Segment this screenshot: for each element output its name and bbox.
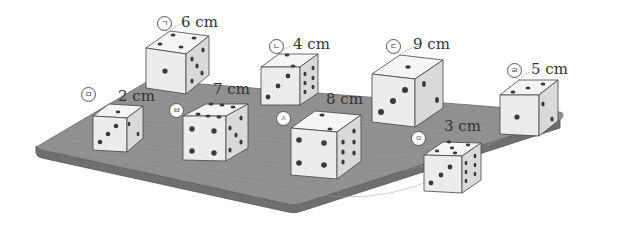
die-d-front — [500, 95, 539, 136]
marker-c: ㄷ — [386, 39, 401, 54]
size-label-g: 8 cm — [326, 92, 363, 107]
size-label-e: 2 cm — [118, 89, 155, 104]
marker-f: ㅂ — [169, 103, 184, 118]
die-f — [183, 103, 248, 162]
die-d — [500, 80, 558, 136]
die-b — [261, 54, 318, 106]
die-b-front — [261, 67, 300, 105]
size-label-b: 4 cm — [293, 37, 330, 52]
size-label-f: 7 cm — [213, 82, 250, 97]
marker-d: ㄹ — [507, 63, 522, 78]
die-e — [93, 104, 143, 152]
marker-e: ㅁ — [81, 87, 96, 102]
die-g — [291, 111, 361, 179]
size-label-a: 6 cm — [181, 15, 218, 30]
die-f-front — [183, 116, 226, 161]
marker-b: ㄴ — [269, 39, 284, 54]
size-label-d: 5 cm — [531, 62, 568, 77]
size-label-c: 9 cm — [413, 37, 450, 52]
marker-h: ㅇ — [411, 131, 426, 146]
marker-g: ㅅ — [276, 111, 291, 126]
dice-table-scene — [0, 0, 623, 226]
size-label-h: 3 cm — [444, 119, 481, 134]
die-g-front — [291, 128, 337, 179]
marker-a: ㄱ — [157, 16, 172, 31]
